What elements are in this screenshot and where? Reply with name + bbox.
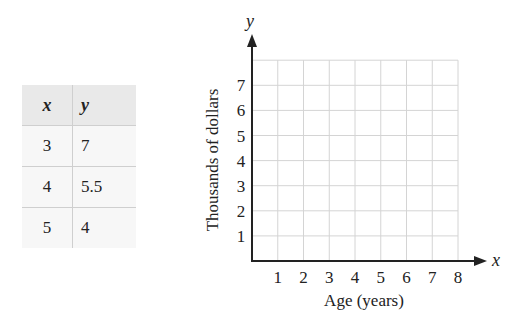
x-tick-labels: 12345678 [274, 268, 463, 287]
x-tick-label: 7 [428, 268, 437, 287]
y-tick-label: 1 [237, 227, 246, 246]
y-tick-label: 2 [237, 202, 246, 221]
y-tick-label: 5 [237, 127, 246, 146]
coordinate-grid: y x 12345678 1234567 Age (years) Thousan… [0, 0, 526, 331]
x-axis-arrow-icon [474, 256, 487, 266]
y-tick-label: 7 [237, 76, 246, 95]
x-tick-label: 8 [454, 268, 463, 287]
x-tick-label: 3 [325, 268, 334, 287]
grid-lines [252, 60, 458, 261]
x-tick-label: 2 [299, 268, 308, 287]
y-axis-arrow-icon [247, 34, 257, 47]
y-tick-label: 6 [237, 101, 246, 120]
x-axis-letter: x [491, 250, 500, 270]
y-axis-letter: y [244, 11, 254, 31]
x-tick-label: 4 [351, 268, 360, 287]
y-tick-label: 4 [237, 152, 246, 171]
y-axis-label: Thousands of dollars [203, 89, 222, 232]
y-tick-labels: 1234567 [237, 76, 246, 246]
y-tick-label: 3 [237, 177, 246, 196]
x-tick-label: 1 [274, 268, 283, 287]
x-tick-label: 5 [377, 268, 386, 287]
x-tick-label: 6 [402, 268, 411, 287]
x-axis-label: Age (years) [324, 291, 404, 310]
